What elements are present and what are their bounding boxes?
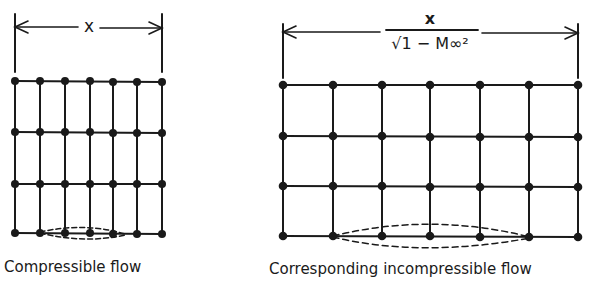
right-dimension-numerator: x <box>380 9 480 28</box>
left-dimension-label: x <box>78 16 100 36</box>
right-dimension-denominator: √1 − M∞² <box>374 34 486 53</box>
figure-canvas <box>0 0 595 294</box>
left-caption: Compressible flow <box>4 258 141 276</box>
right-grid <box>283 85 578 237</box>
right-caption: Corresponding incompressible flow <box>269 260 532 278</box>
left-grid-nodes <box>11 77 166 238</box>
left-grid <box>15 81 162 234</box>
